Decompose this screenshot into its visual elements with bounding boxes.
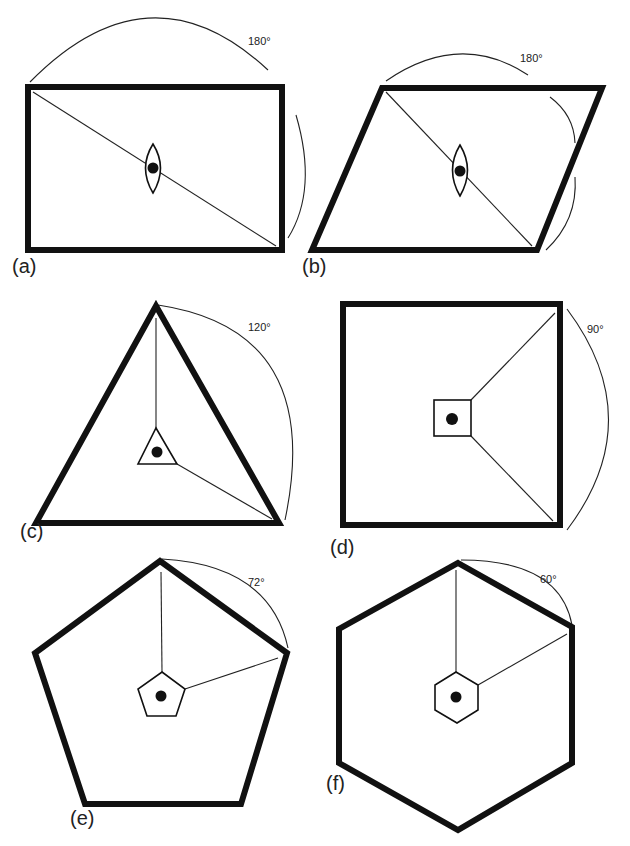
vertex-line-bottom: [471, 436, 553, 521]
nucleus-dot: [148, 163, 159, 174]
panel-d: 90° (d): [330, 304, 609, 558]
panel-label-e: (e): [70, 807, 94, 829]
angle-label-f: 60°: [540, 573, 557, 585]
angle-label-d: 90°: [587, 323, 604, 335]
nucleus-dot: [152, 447, 163, 458]
vertex-line-top: [161, 572, 162, 672]
angle-arc-a: [30, 18, 268, 82]
panel-label-f: (f): [326, 772, 345, 794]
side-arc-b1: [550, 97, 575, 143]
vertex-line-right: [478, 634, 567, 685]
angle-arc-b: [386, 54, 528, 81]
panel-label-c: (c): [20, 520, 43, 542]
triangle-outline: [36, 306, 279, 523]
vertex-line-top: [471, 313, 555, 400]
angle-arc-c: [158, 305, 293, 520]
panel-label-d: (d): [330, 536, 354, 558]
panel-f: 60° (f): [326, 560, 572, 830]
vertex-line-right: [185, 658, 278, 689]
nucleus-dot: [451, 692, 462, 703]
angle-label-c: 120°: [248, 321, 271, 333]
panel-label-b: (b): [302, 255, 326, 277]
panel-e: 72° (e): [35, 559, 288, 829]
side-arc-a: [288, 115, 305, 238]
symmetry-diagram: 180° (a) 180° (b) 120° (c) 90° (d): [0, 0, 630, 846]
angle-label-a: 180°: [248, 35, 271, 47]
angle-label-b: 180°: [520, 52, 543, 64]
angle-arc-e: [162, 559, 288, 648]
panel-b: 180° (b): [302, 52, 602, 277]
nucleus-dot: [156, 691, 167, 702]
angle-arc-d: [567, 309, 609, 530]
panel-a: 180° (a): [12, 18, 305, 277]
nucleus-dot: [455, 166, 466, 177]
angle-label-e: 72°: [248, 576, 265, 588]
triangle-cell: [138, 428, 177, 464]
nucleus-dot: [446, 413, 458, 425]
panel-label-a: (a): [12, 255, 36, 277]
panel-c: 120° (c): [20, 305, 293, 542]
